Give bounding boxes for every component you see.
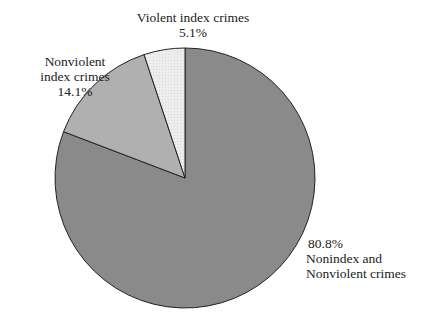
label-violent-index-crimes: Violent index crimes 5.1% bbox=[128, 10, 258, 40]
nonviolent-label-line2: index crimes bbox=[20, 69, 130, 84]
label-nonindex-crimes: 80.8% Nonindex and Nonviolent crimes bbox=[306, 236, 406, 281]
nonviolent-label-pct: 14.1% bbox=[20, 84, 130, 99]
nonindex-label-pct: 80.8% bbox=[306, 236, 406, 251]
nonviolent-label-line1: Nonviolent bbox=[20, 54, 130, 69]
nonindex-label-line2: Nonviolent crimes bbox=[306, 266, 406, 281]
violent-label-pct: 5.1% bbox=[128, 25, 258, 40]
nonindex-label-line1: Nonindex and bbox=[306, 251, 406, 266]
violent-label-text: Violent index crimes bbox=[128, 10, 258, 25]
label-nonviolent-index-crimes: Nonviolent index crimes 14.1% bbox=[20, 54, 130, 99]
